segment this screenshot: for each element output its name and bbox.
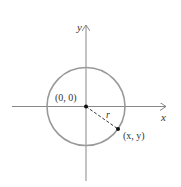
radius-label: r (106, 109, 110, 120)
circle-diagram: y x (0, 0) r (x, y) (0, 0, 181, 187)
origin-label: (0, 0) (55, 92, 77, 104)
radius-line (86, 107, 118, 130)
point-label: (x, y) (123, 130, 145, 142)
point-xy (116, 127, 120, 131)
y-axis-label: y (76, 21, 82, 33)
x-axis-label: x (160, 111, 166, 123)
origin-point (84, 105, 88, 109)
